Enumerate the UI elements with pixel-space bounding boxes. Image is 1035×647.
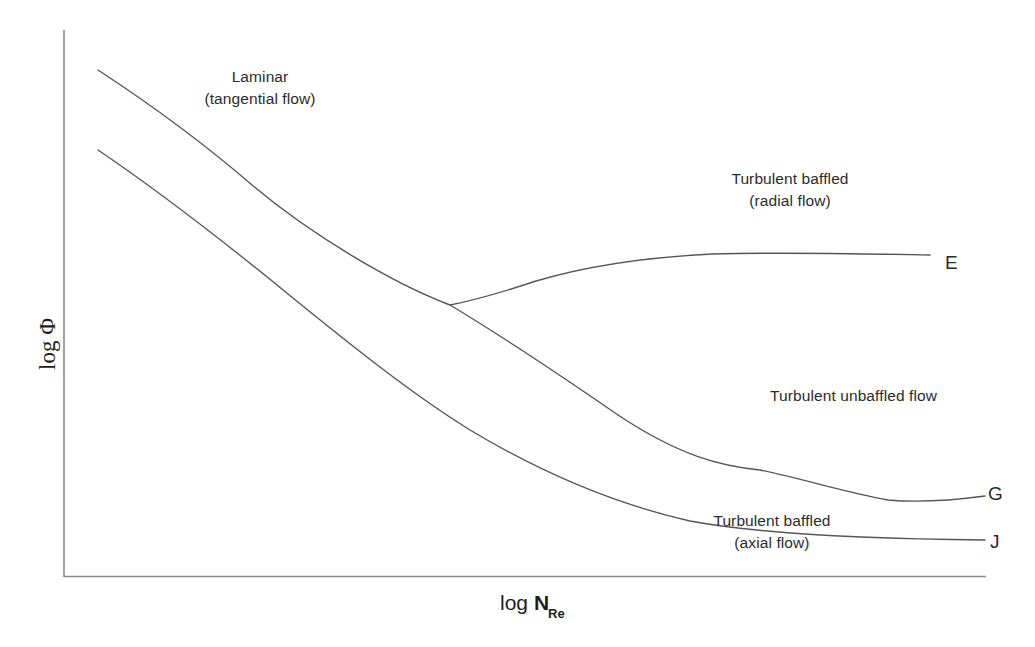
annotation-turbulent-baffled-radial-line1: Turbulent baffled xyxy=(700,168,880,190)
annotation-laminar-line1: Laminar xyxy=(190,66,330,88)
annotation-laminar-line2: (tangential flow) xyxy=(190,88,330,110)
annotation-turbulent-baffled-axial-line1: Turbulent baffled xyxy=(692,510,852,532)
curve-label-g: G xyxy=(988,484,1003,503)
y-axis-label: log Φ xyxy=(36,318,59,370)
x-axis-label-log: log xyxy=(500,591,528,614)
x-axis-label: log NRe xyxy=(500,592,566,621)
chart-figure: log Φ log NRe Laminar (tangential flow) … xyxy=(0,0,1035,647)
annotation-turbulent-baffled-axial: Turbulent baffled (axial flow) xyxy=(692,510,852,554)
curve-label-j: J xyxy=(990,532,1000,551)
annotation-turbulent-baffled-axial-line2: (axial flow) xyxy=(692,532,852,554)
curve-label-e: E xyxy=(945,253,958,272)
annotation-turbulent-baffled-radial: Turbulent baffled (radial flow) xyxy=(700,168,880,212)
annotation-laminar: Laminar (tangential flow) xyxy=(190,66,330,110)
plot-canvas xyxy=(0,0,1035,647)
x-axis-label-n: N xyxy=(534,591,549,614)
annotation-turbulent-baffled-radial-line2: (radial flow) xyxy=(700,190,880,212)
annotation-turbulent-unbaffled: Turbulent unbaffled flow xyxy=(770,385,960,406)
x-axis-label-subscript: Re xyxy=(548,606,565,621)
annotation-turbulent-unbaffled-line1: Turbulent unbaffled flow xyxy=(770,385,960,406)
